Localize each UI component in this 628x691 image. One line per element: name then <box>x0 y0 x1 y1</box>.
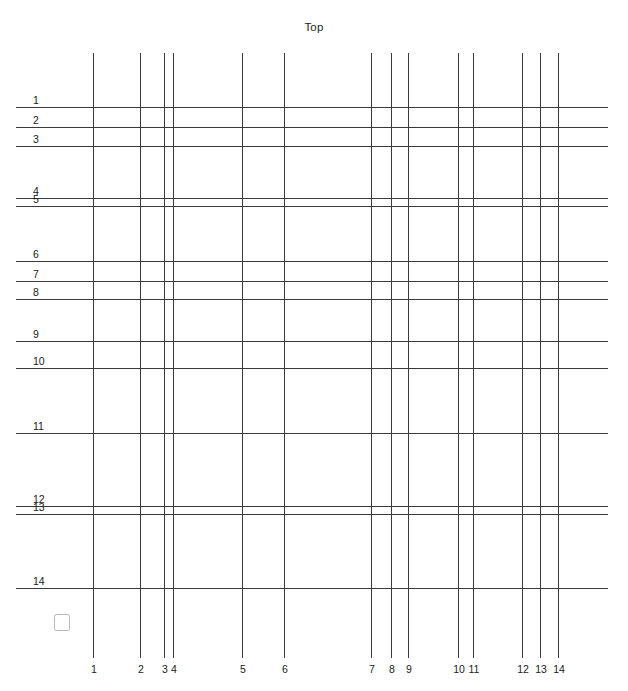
horizontal-line-2[interactable] <box>16 127 608 128</box>
horizontal-line-label-14: 14 <box>33 575 45 587</box>
horizontal-line-12[interactable] <box>16 506 608 507</box>
horizontal-line-label-1: 1 <box>33 94 39 106</box>
horizontal-line-label-5: 5 <box>33 193 39 205</box>
horizontal-line-5[interactable] <box>16 206 608 207</box>
vertical-line-11[interactable] <box>473 53 474 658</box>
vertical-line-8[interactable] <box>391 53 392 658</box>
horizontal-line-label-6: 6 <box>33 248 39 260</box>
vertical-line-label-10: 10 <box>453 663 465 675</box>
horizontal-line-label-11: 11 <box>33 420 44 432</box>
vertical-line-label-1: 1 <box>91 663 97 675</box>
origin-square-marker[interactable] <box>54 614 70 631</box>
horizontal-line-3[interactable] <box>16 146 608 147</box>
grid-diagram-canvas: Top 1234567891011121314 1234567891011121… <box>0 0 628 691</box>
vertical-line-label-14: 14 <box>553 663 565 675</box>
vertical-line-label-7: 7 <box>369 663 375 675</box>
horizontal-line-label-7: 7 <box>33 268 39 280</box>
vertical-line-label-11: 11 <box>469 663 480 675</box>
horizontal-line-1[interactable] <box>16 107 608 108</box>
horizontal-line-14[interactable] <box>16 588 608 589</box>
horizontal-line-6[interactable] <box>16 261 608 262</box>
horizontal-line-9[interactable] <box>16 341 608 342</box>
horizontal-line-label-9: 9 <box>33 328 39 340</box>
vertical-line-7[interactable] <box>371 53 372 658</box>
vertical-line-2[interactable] <box>140 53 141 658</box>
vertical-line-14[interactable] <box>558 53 559 658</box>
vertical-line-label-6: 6 <box>282 663 288 675</box>
vertical-line-label-12: 12 <box>517 663 529 675</box>
vertical-line-label-4: 4 <box>171 663 177 675</box>
horizontal-line-label-2: 2 <box>33 114 39 126</box>
horizontal-line-11[interactable] <box>16 433 608 434</box>
horizontal-line-13[interactable] <box>16 514 608 515</box>
vertical-line-5[interactable] <box>242 53 243 658</box>
vertical-line-label-9: 9 <box>406 663 412 675</box>
horizontal-line-label-3: 3 <box>33 133 39 145</box>
vertical-line-label-8: 8 <box>389 663 395 675</box>
diagram-title: Top <box>0 21 628 33</box>
vertical-line-label-5: 5 <box>240 663 246 675</box>
horizontal-line-8[interactable] <box>16 299 608 300</box>
vertical-line-9[interactable] <box>408 53 409 658</box>
vertical-line-3[interactable] <box>164 53 165 658</box>
vertical-line-13[interactable] <box>540 53 541 658</box>
vertical-line-4[interactable] <box>173 53 174 658</box>
vertical-line-label-3: 3 <box>162 663 168 675</box>
horizontal-line-4[interactable] <box>16 198 608 199</box>
vertical-line-label-2: 2 <box>138 663 144 675</box>
horizontal-line-label-10: 10 <box>33 355 45 367</box>
horizontal-line-10[interactable] <box>16 368 608 369</box>
vertical-line-12[interactable] <box>522 53 523 658</box>
vertical-line-6[interactable] <box>284 53 285 658</box>
horizontal-line-label-13: 13 <box>33 501 45 513</box>
vertical-line-1[interactable] <box>93 53 94 658</box>
horizontal-line-7[interactable] <box>16 281 608 282</box>
vertical-line-10[interactable] <box>458 53 459 658</box>
horizontal-line-label-8: 8 <box>33 286 39 298</box>
vertical-line-label-13: 13 <box>535 663 547 675</box>
